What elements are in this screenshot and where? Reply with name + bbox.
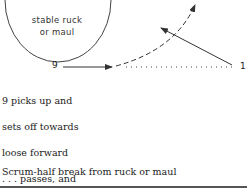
scrum-half-switch-path — [116, 5, 195, 66]
bottom-divider — [0, 186, 247, 188]
description-line: sets off towards — [2, 120, 127, 133]
play-lines — [0, 0, 247, 80]
ruck-label: stable ruck or maul — [22, 14, 92, 38]
ruck-label-line-1: stable ruck — [22, 14, 92, 26]
figure-caption: Scrum-half break from ruck or maul — [2, 166, 247, 177]
loose-forward-run-arrow — [161, 28, 232, 65]
ruck-label-line-2: or maul — [22, 26, 92, 38]
player-9-marker: 9 — [52, 60, 58, 70]
rugby-play-diagram: stable ruck or maul 9 1 — [0, 0, 247, 80]
description-line: 9 picks up and — [2, 94, 127, 107]
description-line: loose forward — [2, 146, 127, 159]
player-1-marker: 1 — [240, 61, 246, 71]
